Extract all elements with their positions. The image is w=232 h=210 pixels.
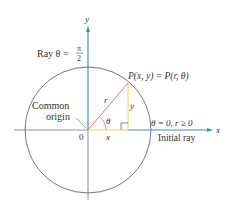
initial-ray-label: Initial ray	[158, 133, 195, 143]
right-angle-marker	[121, 123, 128, 130]
y-arrow-icon	[86, 26, 90, 32]
origin-zero: 0	[79, 132, 84, 142]
r-label: r	[104, 95, 108, 105]
origin-word-label: origin	[46, 111, 70, 122]
x-axis-label: x	[215, 125, 220, 135]
ray-denominator: 2	[77, 54, 81, 63]
polar-coordinates-diagram: y x Ray θ = π 2 P(x, y) = P(r, θ) r y x …	[0, 0, 232, 210]
x-arrow-icon	[207, 128, 213, 132]
origin-pointer	[76, 118, 86, 128]
ray-label: Ray θ =	[37, 48, 69, 59]
y-leg-label: y	[129, 101, 134, 111]
theta-label: θ	[106, 116, 111, 126]
y-axis-label: y	[84, 14, 89, 24]
point-label: P(x, y) = P(r, θ)	[127, 71, 189, 82]
initial-condition-label: θ = 0, r ≥ 0	[151, 118, 193, 128]
x-leg-label: x	[105, 132, 110, 142]
ray-numerator: π	[77, 44, 81, 53]
common-label: Common	[32, 100, 69, 111]
